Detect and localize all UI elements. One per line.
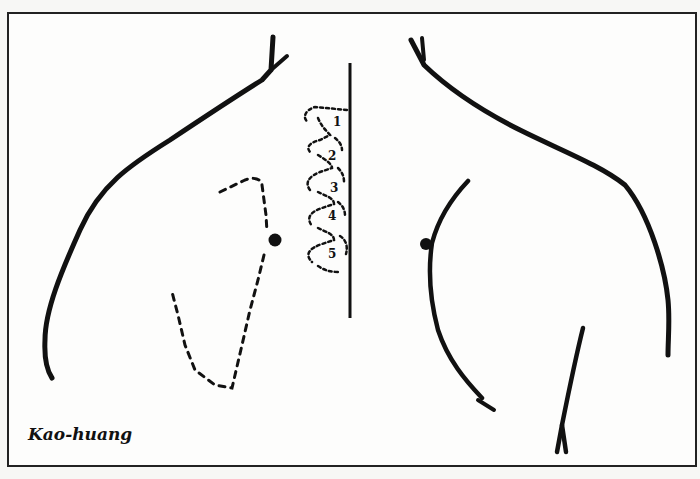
acupoint-diagram: 1 2 3 4 5 Kao-huang <box>0 0 700 479</box>
vertebra-label-2: 2 <box>328 149 336 163</box>
diagram-canvas: 1 2 3 4 5 <box>0 0 700 479</box>
acupoint-right <box>420 238 432 250</box>
vertebra-label-1: 1 <box>333 115 341 129</box>
vertebra-label-3: 3 <box>330 181 338 195</box>
vertebra-label-4: 4 <box>328 209 336 223</box>
figure-caption: Kao-huang <box>28 424 132 444</box>
figure-frame <box>8 13 696 466</box>
vertebra-label-5: 5 <box>328 247 336 261</box>
acupoint-left <box>269 234 282 247</box>
